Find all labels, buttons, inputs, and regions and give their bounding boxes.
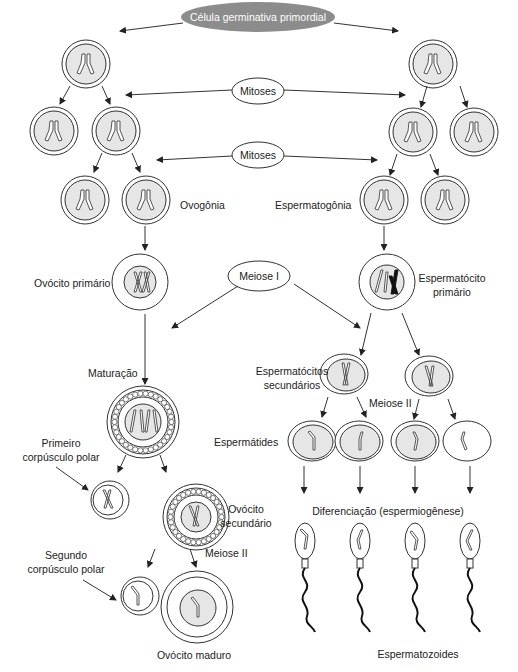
arrow xyxy=(190,549,196,567)
primary-spermatocyte-label-1: Espermatócito xyxy=(418,272,485,284)
female-mitosis-cell-a xyxy=(30,107,78,155)
arrow xyxy=(448,399,455,419)
primary-oocyte-label: Ovócito primário xyxy=(34,277,111,289)
mature-oocyte-label: Ovócito maduro xyxy=(157,649,231,661)
arrow-mitoses1-left xyxy=(126,90,232,95)
spermatozoon-2 xyxy=(350,523,370,632)
ovogonia-label: Ovogônia xyxy=(180,199,225,211)
primary-spermatocyte-label-2: primário xyxy=(433,286,471,298)
female-germ-cell xyxy=(62,40,110,88)
maturation-label: Maturação xyxy=(88,367,138,379)
arrow-root-to-male xyxy=(334,23,398,31)
spermatid-1 xyxy=(288,421,336,461)
second-polar-body-label-2: corpúsculo polar xyxy=(27,563,105,575)
arrow xyxy=(160,455,166,472)
arrow xyxy=(460,86,467,107)
secondary-oocyte-label-1: Ovócito xyxy=(228,503,264,515)
arrow xyxy=(402,313,419,355)
male-spermatogonium-b xyxy=(421,176,469,224)
spermatozoon-3 xyxy=(405,523,425,632)
male-spermatogonium-a xyxy=(360,176,408,224)
arrow xyxy=(414,399,419,419)
arrow xyxy=(132,153,140,172)
arrow-root-to-female xyxy=(120,23,183,31)
female-oogonium-a xyxy=(61,176,109,224)
arrow xyxy=(148,549,155,567)
root-label: Célula germinativa primordial xyxy=(190,11,326,23)
male-mitosis-cell-a xyxy=(389,108,437,156)
male-meiosis-ii-label: Meiose II xyxy=(369,397,412,409)
arrow-mitoses2-right xyxy=(284,156,377,160)
male-mitosis-cell-b xyxy=(450,108,498,156)
second-polar-body-label-1: Segundo xyxy=(45,549,87,561)
spermatogonia-label: Espermatogônia xyxy=(275,199,352,211)
secondary-spermatocyte-b xyxy=(405,356,453,396)
arrow xyxy=(102,86,110,104)
first-polar-body-label-2: corpúsculo polar xyxy=(22,451,100,463)
secondary-oocyte-cell xyxy=(163,484,229,550)
arrow-meiosis1-right xyxy=(294,284,360,328)
mitoses-label-2: Mitoses xyxy=(240,149,276,161)
primary-spermatocyte-cell xyxy=(359,254,415,310)
female-meiosis-ii-label: Meiose II xyxy=(205,547,248,559)
female-oogonium-b xyxy=(122,176,170,224)
meiosis-i-label: Meiose I xyxy=(239,270,279,282)
secondary-oocyte-label-2: secundário xyxy=(220,517,272,529)
first-polar-body-cell xyxy=(91,481,129,519)
spermatid-3 xyxy=(391,421,439,461)
spermatids-label: Espermátides xyxy=(214,436,278,448)
male-germ-cell xyxy=(409,40,457,88)
second-polar-body-cell xyxy=(121,577,159,615)
spermatozoon-1 xyxy=(295,523,315,632)
spermatid-4 xyxy=(443,421,491,461)
spermatozoa-label: Espermatozoides xyxy=(377,648,458,660)
mitoses-oval-1: Mitoses xyxy=(232,78,284,104)
maturing-oocyte-cell xyxy=(107,386,179,458)
female-lineage: Ovogônia Ovócito primário Maturação Prim… xyxy=(22,40,271,661)
arrow xyxy=(357,397,366,417)
arrow xyxy=(94,153,102,172)
arrow xyxy=(361,313,371,355)
arrow xyxy=(322,397,328,417)
mitoses-oval-2: Mitoses xyxy=(232,142,284,168)
primary-oocyte-cell xyxy=(112,254,168,310)
spermatozoon-4 xyxy=(460,523,480,632)
spermatid-2 xyxy=(335,421,383,461)
arrow-meiosis1-left xyxy=(172,286,238,328)
arrow-mitoses1-right xyxy=(284,90,405,95)
mature-oocyte-cell xyxy=(161,571,233,643)
diagram-canvas: Célula germinativa primordial Mitoses Mi… xyxy=(0,0,518,672)
male-lineage: Espermatogônia Espermatócito primário Es… xyxy=(214,40,498,660)
female-mitosis-cell-b xyxy=(92,107,140,155)
arrow xyxy=(83,580,116,600)
secondary-spermatocytes-label-1: Espermatócitos xyxy=(256,365,328,377)
gametogenesis-diagram: Célula germinativa primordial Mitoses Mi… xyxy=(0,0,518,672)
arrow xyxy=(60,86,70,104)
mitoses-label-1: Mitoses xyxy=(240,85,276,97)
differentiation-label: Diferenciação (espermiogênese) xyxy=(312,505,464,517)
arrow xyxy=(118,455,126,472)
primordial-germ-cell-node: Célula germinativa primordial xyxy=(181,2,335,32)
arrow-mitoses2-left xyxy=(157,156,232,160)
secondary-spermatocytes-label-2: secundários xyxy=(264,379,321,391)
arrow xyxy=(390,154,397,175)
arrow xyxy=(421,86,427,107)
arrow xyxy=(430,154,438,175)
arrow xyxy=(56,467,88,490)
first-polar-body-label-1: Primeiro xyxy=(41,437,80,449)
